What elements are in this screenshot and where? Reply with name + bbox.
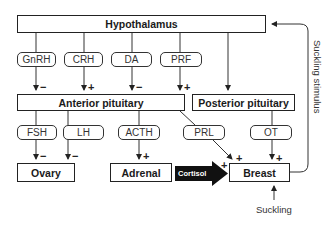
crh-pill: CRH: [64, 52, 103, 67]
ovary-box: Ovary: [17, 163, 75, 182]
lh-pill: LH: [63, 125, 104, 140]
gnrh-pill: GnRH: [17, 52, 56, 67]
suckling-stimulus-label: Suckling stimulus: [312, 40, 323, 113]
ot-sign: +: [276, 153, 282, 163]
connector-lines: [0, 0, 336, 227]
prf-pill: PRF: [160, 52, 202, 67]
lh-label: LH: [77, 127, 90, 138]
da-sign: −: [136, 82, 142, 92]
cortisol-label: Cortisol: [178, 169, 206, 178]
anterior-pituitary-box: Anterior pituitary: [17, 94, 185, 111]
acth-sign: +: [143, 151, 149, 161]
fsh-sign: −: [40, 151, 46, 161]
posterior-pituitary-label: Posterior pituitary: [198, 97, 288, 109]
acth-label: ACTH: [125, 127, 152, 138]
prl-label: PRL: [194, 127, 213, 138]
prf-label: PRF: [171, 54, 191, 65]
prl-pill: PRL: [183, 125, 225, 140]
da-label: DA: [125, 54, 139, 65]
hormone-regulation-diagram: Hypothalamus GnRH CRH DA PRF − + − + Ant…: [0, 0, 336, 227]
lh-sign: −: [72, 151, 78, 161]
da-pill: DA: [111, 52, 152, 67]
ot-label: OT: [264, 127, 278, 138]
suckling-label: Suckling: [256, 204, 292, 215]
prf-sign: +: [184, 82, 190, 92]
hypothalamus-label: Hypothalamus: [105, 18, 177, 30]
crh-label: CRH: [73, 54, 95, 65]
hypothalamus-box: Hypothalamus: [17, 15, 266, 33]
acth-pill: ACTH: [118, 125, 160, 140]
crh-sign: +: [88, 82, 94, 92]
breast-box: Breast: [229, 163, 290, 182]
fsh-pill: FSH: [17, 125, 57, 140]
cortisol-sign: +: [221, 160, 227, 170]
adrenal-label: Adrenal: [121, 167, 160, 179]
anterior-pituitary-label: Anterior pituitary: [58, 97, 143, 109]
fsh-label: FSH: [27, 127, 47, 138]
prl-sign: +: [236, 153, 242, 163]
ot-pill: OT: [250, 125, 292, 140]
gnrh-label: GnRH: [23, 54, 51, 65]
posterior-pituitary-box: Posterior pituitary: [192, 94, 295, 111]
breast-label: Breast: [243, 167, 276, 179]
gnrh-sign: −: [40, 82, 46, 92]
adrenal-box: Adrenal: [110, 163, 172, 182]
ovary-label: Ovary: [31, 167, 61, 179]
